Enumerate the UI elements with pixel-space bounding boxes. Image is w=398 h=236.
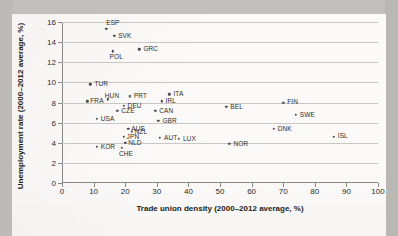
x-tick-label: 20 [121,187,130,196]
data-point [96,146,98,148]
y-tick [58,62,62,63]
y-tick-label: 2 [52,158,56,167]
y-tick-label: 14 [47,38,56,47]
data-point [159,137,161,139]
x-tick-label: 90 [342,187,351,196]
data-point [295,113,297,115]
data-point [168,93,170,95]
y-tick-label: 6 [52,118,56,127]
scatter-plot-area: 0246810121416 0102030405060708090100 ESP… [62,22,378,183]
gridline [62,163,378,164]
data-point [127,127,129,129]
data-point-label: SWE [300,111,315,118]
data-point-label: CZE [121,107,134,114]
data-point-label: USA [101,115,115,122]
y-tick [58,123,62,124]
data-point-label: BEL [230,103,243,110]
y-tick-label: 0 [52,179,56,188]
x-tick-label: 100 [371,187,384,196]
data-point-label: FIN [287,98,298,105]
data-point [138,48,140,50]
y-tick [58,143,62,144]
y-tick-label: 16 [47,18,56,27]
data-point [89,83,91,85]
x-axis-title: Trade union density (2000–2012 average, … [62,204,378,213]
data-point-label: SVK [118,32,131,39]
gridline [62,82,378,83]
data-point [129,95,131,97]
data-point-label: CHE [119,150,133,157]
data-point-label: FRA [90,97,103,104]
scanned-chart-page: Unemployment rate (2000–2012 average, %)… [0,0,398,236]
y-tick-label: 12 [47,58,56,67]
data-point-label: IRL [166,97,176,104]
gridline [62,123,378,124]
x-tick-label: 50 [216,187,225,196]
x-tick-label: 10 [89,187,98,196]
y-tick [58,42,62,43]
data-point [113,35,115,37]
data-point [154,109,156,111]
x-tick-label: 30 [152,187,161,196]
data-point-label: PRT [134,92,147,99]
data-point [225,105,227,107]
scan-artifact-right-band [385,0,398,236]
y-tick-label: 8 [52,98,56,107]
data-point-label: DNK [278,125,292,132]
x-tick-label: 40 [184,187,193,196]
x-tick-label: 80 [310,187,319,196]
y-tick [58,82,62,83]
y-tick-label: 10 [47,78,56,87]
y-tick [58,22,62,23]
data-point-label: LUX [183,135,196,142]
y-axis-title: Unemployment rate (2000–2012 average, %) [14,16,28,196]
data-point [333,136,335,138]
data-point [121,147,123,149]
data-point-label: ISL [338,132,348,139]
data-point [122,136,124,138]
data-point-label: ESP [106,19,119,26]
x-tick-label: 60 [247,187,256,196]
x-tick-label: 70 [279,187,288,196]
data-point-label: POL [110,53,123,60]
y-tick-label: 4 [52,138,56,147]
data-point [273,127,275,129]
data-point [157,119,159,121]
data-point-label: NOR [233,140,248,147]
data-point-label: GBR [162,117,176,124]
data-point-label: KOR [101,143,115,150]
data-point [116,109,118,111]
y-tick [58,163,62,164]
data-point-label: HUN [105,92,119,99]
data-point [105,28,107,30]
data-point-label: GRC [143,45,158,52]
gridline [62,62,378,63]
data-point [96,117,98,119]
y-tick [58,103,62,104]
x-tick-label: 0 [60,187,64,196]
data-point [178,138,180,140]
data-point [111,50,113,52]
data-point-label: AUT [164,134,177,141]
data-point-label: NLD [128,139,141,146]
gridline [62,103,378,104]
data-point-label: TUR [94,80,108,87]
data-point-label: ITA [173,90,183,97]
data-point-label: CAN [159,107,173,114]
gridline [62,42,378,43]
